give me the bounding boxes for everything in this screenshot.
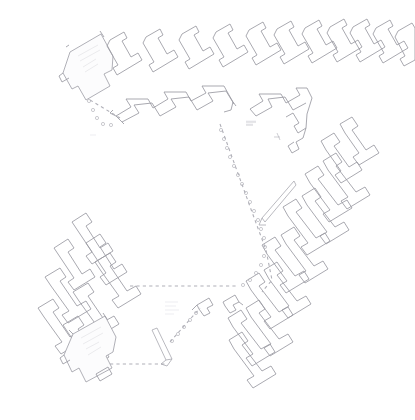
path-south-diagonal xyxy=(170,308,200,342)
cluster-west-block xyxy=(38,213,141,382)
building-unit xyxy=(305,166,352,222)
cluster-north-east-block xyxy=(246,88,312,153)
building-unit xyxy=(229,332,276,388)
site-plan-drawing xyxy=(0,0,415,420)
path-south-walk xyxy=(152,328,172,366)
micro-label-center xyxy=(165,302,179,314)
cluster-south-east-row xyxy=(228,237,311,388)
path-diagonal-walk xyxy=(259,181,296,225)
building-unit xyxy=(246,22,281,65)
site-plan-canvas xyxy=(0,0,415,420)
building-unit xyxy=(60,313,116,382)
building-unit xyxy=(45,268,91,323)
building-unit xyxy=(59,31,113,100)
tree-row-northwest xyxy=(87,99,112,126)
building-unit xyxy=(340,117,379,165)
building-unit xyxy=(143,29,178,72)
building-unit xyxy=(213,24,248,67)
building-unit xyxy=(86,234,127,285)
path-network xyxy=(90,100,272,364)
micro-label-north xyxy=(246,121,256,124)
cluster-south-small-units xyxy=(192,295,243,316)
building-unit xyxy=(302,188,349,244)
building-unit xyxy=(179,26,214,69)
cluster-north-row xyxy=(59,19,415,100)
building-unit xyxy=(95,253,141,308)
building-unit xyxy=(274,21,309,64)
building-unit xyxy=(264,262,311,318)
tree-row-central xyxy=(219,128,266,286)
cluster-north-inner-row xyxy=(110,86,236,124)
